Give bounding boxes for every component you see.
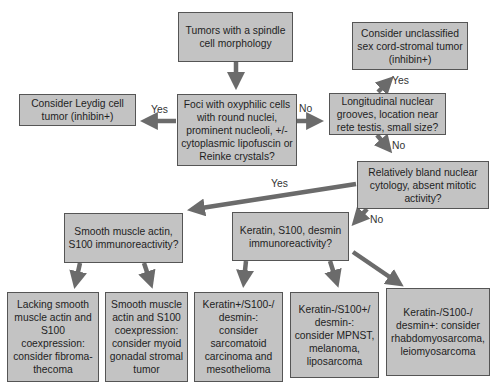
node-unclassified: Consider unclassified sex cord-stromal t… xyxy=(352,22,468,70)
node-rhabdo: Keratin-/S100-/ desmin+: consider rhabdo… xyxy=(386,288,490,376)
node-root: Tumors with a spindle cell morphology xyxy=(178,12,293,62)
label-no-longitudinal: No xyxy=(299,103,312,114)
arrow-sma-to-fibroma xyxy=(76,263,80,281)
arrow-keratin-to-mpnst xyxy=(330,261,336,280)
node-sarcomatoid: Keratin+/S100-/ desmin-: consider sarcom… xyxy=(194,292,283,382)
label-no-keratin: No xyxy=(370,214,383,225)
arrow-keratin-to-sarcomatoid xyxy=(244,261,246,280)
node-sma: Smooth muscle actin, S100 immunoreactivi… xyxy=(64,213,183,263)
label-yes-unclassified: Yes xyxy=(392,75,409,86)
label-no-bland: No xyxy=(392,140,405,151)
node-foci: Foci with oxyphilic cells with round nuc… xyxy=(177,94,297,166)
label-yes-sma: Yes xyxy=(271,178,288,189)
label-yes-leydig: Yes xyxy=(151,104,168,115)
arrow-sma-to-myoid xyxy=(144,263,150,281)
arrow-longitudinal-to-bland xyxy=(377,135,387,147)
arrow-bland-to-keratin xyxy=(357,209,367,220)
arrow-keratin-to-rhabdo xyxy=(353,252,397,282)
node-leydig: Consider Leydig cell tumor (inhibin+) xyxy=(19,94,136,126)
node-myoid: Smooth muscle actin and S100 coexpressio… xyxy=(105,292,188,382)
node-bland: Relatively bland nuclear cytology, absen… xyxy=(357,161,489,209)
node-keratin: Keratin, S100, desmin immunoreactivity? xyxy=(232,212,349,261)
arrow-longitudinal-to-unclassified xyxy=(378,82,388,92)
node-fibroma: Lacking smooth muscle actin and S100 coe… xyxy=(7,292,99,382)
node-mpnst: Keratin-/S100+/ desmin-: consider MPNST,… xyxy=(290,292,379,378)
node-longitudinal: Longitudinal nuclear grooves, location n… xyxy=(329,93,446,135)
